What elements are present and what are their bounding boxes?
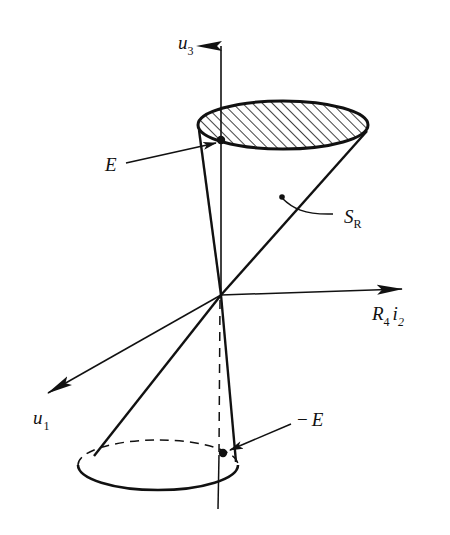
E-label: E (104, 154, 117, 175)
cone-diagram: u3 R4i2 u1 SR E −E (0, 0, 450, 535)
u3-label-base: u (178, 32, 188, 53)
R4i2-axis (221, 289, 402, 295)
minus-E-leader-line (230, 424, 291, 450)
R4i2-axis-label: R4i2 (371, 303, 404, 329)
u3-axis-dashed-segment (219, 300, 220, 452)
u1-axis-label: u1 (33, 407, 50, 433)
minus-E-label-base: E (311, 409, 324, 430)
u3-label-sub: 3 (188, 44, 194, 58)
minus-E-point-marker (219, 449, 227, 457)
lower-base-front-arc (78, 465, 238, 490)
u3-axis-label: u3 (178, 32, 194, 58)
u1-label-sub: 1 (44, 419, 50, 433)
R4i2-label-base: R (371, 303, 384, 324)
R4i2-label-sub2: 2 (398, 315, 404, 329)
E-point-marker (217, 136, 225, 144)
upper-cone-left-edge (199, 130, 221, 295)
u1-label-base: u (33, 407, 43, 428)
minus-sign: − (297, 409, 308, 430)
lower-cone-right-edge (221, 295, 236, 462)
lower-cone-left-edge (94, 295, 221, 456)
figure-root: u3 R4i2 u1 SR E −E (0, 0, 450, 535)
SR-label-base: S (344, 206, 354, 227)
minus-E-label: −E (297, 409, 324, 430)
SR-label-sub: R (354, 217, 362, 231)
R4i2-label-sub: 4 (384, 315, 390, 329)
SR-leader-curve (282, 198, 333, 214)
SR-label: SR (344, 206, 362, 231)
u1-axis (48, 295, 221, 393)
lower-base-back-arc (78, 440, 238, 465)
